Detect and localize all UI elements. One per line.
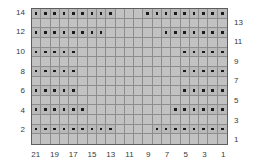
chart-cell[interactable] — [153, 57, 162, 67]
chart-cell[interactable] — [218, 67, 227, 77]
chart-cell[interactable] — [181, 38, 190, 48]
chart-cell[interactable] — [181, 28, 190, 38]
chart-cell[interactable] — [106, 134, 115, 144]
chart-cell[interactable] — [190, 96, 199, 106]
chart-cell[interactable] — [208, 86, 217, 96]
chart-cell[interactable] — [208, 67, 217, 77]
chart-cell[interactable] — [60, 57, 69, 67]
chart-cell[interactable] — [78, 86, 87, 96]
chart-cell[interactable] — [116, 9, 125, 19]
chart-cell[interactable] — [143, 48, 152, 58]
chart-cell[interactable] — [171, 115, 180, 125]
chart-cell[interactable] — [134, 38, 143, 48]
chart-cell[interactable] — [162, 134, 171, 144]
chart-cell[interactable] — [88, 67, 97, 77]
chart-cell[interactable] — [88, 19, 97, 29]
chart-cell[interactable] — [60, 115, 69, 125]
chart-cell[interactable] — [208, 115, 217, 125]
chart-cell[interactable] — [125, 96, 134, 106]
chart-cell[interactable] — [51, 105, 60, 115]
chart-cell[interactable] — [199, 96, 208, 106]
chart-cell[interactable] — [88, 115, 97, 125]
chart-cell[interactable] — [218, 19, 227, 29]
chart-cell[interactable] — [41, 125, 50, 135]
chart-cell[interactable] — [143, 38, 152, 48]
chart-cell[interactable] — [60, 67, 69, 77]
chart-cell[interactable] — [78, 9, 87, 19]
chart-cell[interactable] — [51, 57, 60, 67]
chart-cell[interactable] — [69, 125, 78, 135]
chart-cell[interactable] — [41, 38, 50, 48]
chart-cell[interactable] — [97, 77, 106, 87]
chart-cell[interactable] — [199, 28, 208, 38]
chart-cell[interactable] — [162, 96, 171, 106]
chart-cell[interactable] — [125, 77, 134, 87]
chart-cell[interactable] — [190, 38, 199, 48]
chart-cell[interactable] — [125, 57, 134, 67]
chart-cell[interactable] — [125, 48, 134, 58]
chart-cell[interactable] — [41, 48, 50, 58]
chart-cell[interactable] — [181, 67, 190, 77]
chart-cell[interactable] — [88, 105, 97, 115]
chart-cell[interactable] — [78, 77, 87, 87]
chart-cell[interactable] — [51, 134, 60, 144]
chart-cell[interactable] — [134, 19, 143, 29]
chart-cell[interactable] — [97, 57, 106, 67]
chart-cell[interactable] — [41, 9, 50, 19]
chart-cell[interactable] — [88, 77, 97, 87]
chart-cell[interactable] — [32, 48, 41, 58]
chart-cell[interactable] — [208, 77, 217, 87]
chart-cell[interactable] — [116, 19, 125, 29]
chart-cell[interactable] — [41, 19, 50, 29]
chart-grid[interactable] — [31, 8, 228, 145]
chart-cell[interactable] — [218, 115, 227, 125]
chart-cell[interactable] — [32, 38, 41, 48]
chart-cell[interactable] — [32, 105, 41, 115]
chart-cell[interactable] — [208, 96, 217, 106]
chart-cell[interactable] — [41, 115, 50, 125]
chart-cell[interactable] — [171, 67, 180, 77]
chart-cell[interactable] — [134, 48, 143, 58]
chart-cell[interactable] — [97, 125, 106, 135]
chart-cell[interactable] — [97, 86, 106, 96]
chart-cell[interactable] — [153, 67, 162, 77]
chart-cell[interactable] — [125, 19, 134, 29]
chart-cell[interactable] — [162, 28, 171, 38]
chart-cell[interactable] — [134, 125, 143, 135]
chart-cell[interactable] — [171, 96, 180, 106]
chart-cell[interactable] — [134, 28, 143, 38]
chart-cell[interactable] — [97, 67, 106, 77]
chart-cell[interactable] — [218, 125, 227, 135]
chart-cell[interactable] — [116, 96, 125, 106]
chart-cell[interactable] — [199, 38, 208, 48]
chart-cell[interactable] — [97, 96, 106, 106]
chart-cell[interactable] — [208, 134, 217, 144]
chart-cell[interactable] — [162, 19, 171, 29]
chart-cell[interactable] — [125, 28, 134, 38]
chart-cell[interactable] — [199, 19, 208, 29]
chart-cell[interactable] — [181, 9, 190, 19]
chart-cell[interactable] — [125, 38, 134, 48]
chart-cell[interactable] — [51, 28, 60, 38]
chart-cell[interactable] — [125, 105, 134, 115]
chart-cell[interactable] — [162, 115, 171, 125]
chart-cell[interactable] — [116, 77, 125, 87]
chart-cell[interactable] — [51, 77, 60, 87]
chart-cell[interactable] — [125, 9, 134, 19]
chart-cell[interactable] — [190, 48, 199, 58]
chart-cell[interactable] — [171, 28, 180, 38]
chart-cell[interactable] — [51, 115, 60, 125]
chart-cell[interactable] — [208, 9, 217, 19]
chart-cell[interactable] — [32, 19, 41, 29]
chart-cell[interactable] — [199, 115, 208, 125]
chart-cell[interactable] — [88, 134, 97, 144]
chart-cell[interactable] — [199, 9, 208, 19]
chart-cell[interactable] — [97, 38, 106, 48]
chart-cell[interactable] — [181, 77, 190, 87]
chart-cell[interactable] — [69, 19, 78, 29]
chart-cell[interactable] — [116, 67, 125, 77]
chart-cell[interactable] — [181, 19, 190, 29]
chart-cell[interactable] — [116, 86, 125, 96]
chart-cell[interactable] — [51, 19, 60, 29]
chart-cell[interactable] — [199, 105, 208, 115]
